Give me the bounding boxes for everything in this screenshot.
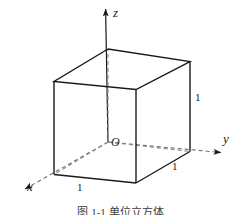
hidden-edge-origin-to-back-right — [108, 142, 190, 152]
cube-hidden-edges — [54, 49, 190, 175]
edge-length-label-bottom-front: 1 — [77, 182, 83, 193]
z-axis-label: z — [113, 6, 118, 19]
hidden-edge-origin-to-back-left — [54, 142, 108, 175]
cube-visible-edges — [54, 49, 190, 183]
cube-edge-bottom-front-left — [54, 175, 136, 184]
x-axis-label: x — [27, 180, 33, 193]
edge-length-label-vertical-right: 1 — [195, 92, 201, 103]
cube-top-face — [54, 49, 190, 90]
figure-container: z y x O 1 1 1 图 1-1 单位立方体 — [0, 0, 241, 215]
edge-length-label-bottom-right: 1 — [172, 161, 178, 172]
figure-caption: 图 1-1 单位立方体 — [0, 205, 241, 215]
y-axis-label: y — [223, 132, 229, 145]
origin-label: O — [111, 136, 120, 148]
unit-cube-diagram — [0, 0, 241, 215]
cube-edge-bottom-front-right — [136, 152, 190, 184]
